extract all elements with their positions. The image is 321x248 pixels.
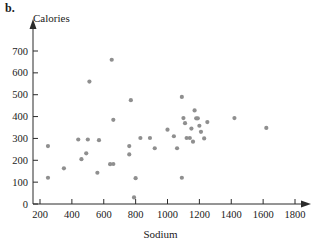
x-axis-tick-label: 1400 (221, 209, 242, 220)
y-axis-tick-label: 200 (12, 155, 28, 166)
data-point (165, 128, 169, 132)
data-point (62, 166, 66, 170)
data-point (232, 116, 236, 120)
x-axis-tick-label: 1000 (157, 209, 178, 220)
data-point (153, 146, 157, 150)
data-point (180, 95, 184, 99)
data-point (199, 130, 203, 134)
data-point (205, 120, 209, 124)
y-axis-tick-label: 100 (12, 177, 28, 188)
scatter-plot-figure: b. Calories 0100200300400500600700200400… (0, 0, 321, 248)
data-point (188, 136, 192, 140)
data-point (202, 136, 206, 140)
x-axis-tick-label: 800 (128, 209, 144, 220)
data-points-group (46, 58, 269, 200)
y-axis-tick-label: 300 (12, 133, 28, 144)
axes-group: 0100200300400500600700200400600800100012… (12, 19, 311, 220)
y-axis-tick-label: 0 (23, 199, 28, 210)
data-point (134, 176, 138, 180)
plot-area: 0100200300400500600700200400600800100012… (0, 0, 321, 248)
data-point (127, 152, 131, 156)
data-point (197, 124, 201, 128)
data-point (189, 126, 193, 130)
data-point (191, 140, 195, 144)
data-point (175, 146, 179, 150)
data-point (196, 116, 200, 120)
x-axis-tick-label: 1800 (285, 209, 306, 220)
x-axis-tick-label: 200 (32, 209, 48, 220)
data-point (181, 116, 185, 120)
data-point (264, 126, 268, 130)
y-axis-tick-label: 700 (12, 46, 28, 57)
x-axis-tick-label: 400 (64, 209, 80, 220)
data-point (138, 136, 142, 140)
y-axis-arrow-icon (30, 19, 37, 29)
data-point (86, 137, 90, 141)
data-point (132, 195, 136, 199)
data-point (127, 144, 131, 148)
data-point (84, 151, 88, 155)
data-point (79, 157, 83, 161)
data-point (148, 136, 152, 140)
data-point (46, 176, 50, 180)
data-point (46, 144, 50, 148)
data-point (129, 98, 133, 102)
data-point (110, 58, 114, 62)
data-point (111, 118, 115, 122)
data-point (180, 176, 184, 180)
data-point (192, 108, 196, 112)
x-axis-tick-label: 600 (96, 209, 112, 220)
data-point (111, 162, 115, 166)
x-axis-arrow-icon (301, 201, 311, 208)
y-axis-tick-label: 500 (12, 89, 28, 100)
data-point (87, 80, 91, 84)
y-axis-tick-label: 400 (12, 111, 28, 122)
x-axis-tick-label: 1200 (189, 209, 210, 220)
x-axis-tick-label: 1600 (253, 209, 274, 220)
data-point (183, 121, 187, 125)
data-point (172, 134, 176, 138)
y-axis-tick-label: 600 (12, 67, 28, 78)
data-point (76, 137, 80, 141)
x-axis-label: Sodium (0, 228, 321, 240)
data-point (95, 171, 99, 175)
data-point (97, 138, 101, 142)
